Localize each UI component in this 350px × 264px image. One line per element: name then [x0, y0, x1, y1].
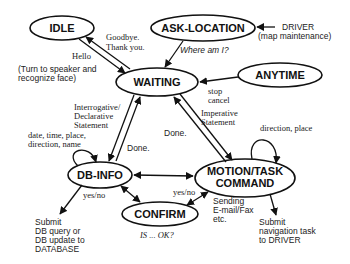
svg-text:recognize face): recognize face)	[18, 73, 76, 83]
svg-text:Done.: Done.	[127, 143, 150, 153]
node-confirm: CONFIRM	[122, 202, 198, 226]
svg-text:(map maintenance): (map maintenance)	[258, 31, 331, 41]
svg-text:Statement: Statement	[74, 120, 109, 130]
svg-text:CONFIRM: CONFIRM	[134, 208, 185, 220]
svg-text:Where am I?: Where am I?	[180, 45, 229, 55]
state-diagram: IDLE ASK-LOCATION WAITING ANYTIME DB-INF…	[0, 0, 350, 264]
svg-text:etc.: etc.	[213, 214, 227, 224]
node-ask-location: ASK-LOCATION	[151, 15, 255, 41]
svg-text:Done.: Done.	[164, 128, 187, 138]
svg-text:to DRIVER: to DRIVER	[259, 235, 301, 245]
svg-text:WAITING: WAITING	[133, 76, 180, 88]
edge-db-motion	[134, 175, 193, 176]
svg-text:direction, place: direction, place	[260, 123, 313, 133]
svg-text:DB-INFO: DB-INFO	[77, 169, 123, 181]
svg-text:direction, name: direction, name	[28, 139, 81, 149]
svg-text:ANYTIME: ANYTIME	[255, 69, 305, 81]
svg-text:IDLE: IDLE	[49, 22, 74, 34]
node-motion-task-command: MOTION/TASK COMMAND	[195, 159, 295, 197]
svg-text:Goodbye.: Goodbye.	[106, 32, 139, 42]
svg-text:yes/no: yes/no	[83, 190, 105, 200]
node-idle: IDLE	[30, 16, 94, 40]
edge-submit-db	[60, 185, 82, 214]
svg-text:ASK-LOCATION: ASK-LOCATION	[161, 22, 245, 34]
svg-text:Statement: Statement	[201, 117, 236, 127]
edge-submit-nav	[270, 194, 276, 215]
svg-text:Hello: Hello	[72, 51, 91, 61]
svg-text:yes/no: yes/no	[173, 187, 195, 197]
edge-stop-cancel	[200, 77, 238, 82]
node-waiting: WAITING	[116, 68, 198, 96]
edge-db-confirm	[121, 186, 140, 202]
svg-text:COMMAND: COMMAND	[216, 177, 275, 189]
svg-text:DATABASE: DATABASE	[35, 244, 79, 254]
node-anytime: ANYTIME	[238, 63, 322, 87]
svg-text:IS ... OK?: IS ... OK?	[139, 230, 175, 240]
svg-text:cancel: cancel	[208, 95, 230, 105]
svg-text:MOTION/TASK: MOTION/TASK	[207, 165, 283, 177]
svg-text:Thank you.: Thank you.	[106, 42, 145, 52]
